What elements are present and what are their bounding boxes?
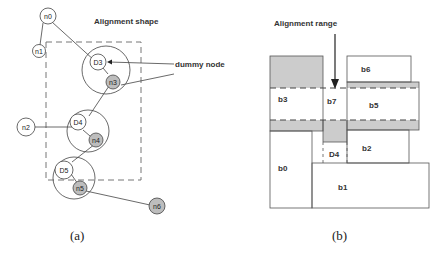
label-b6: b6	[361, 65, 371, 74]
svg-text:n5: n5	[76, 185, 84, 192]
alignment-range-title: Alignment range	[274, 19, 338, 28]
node-n6: n6	[149, 198, 165, 214]
arrowhead-icon	[107, 60, 112, 65]
node-n2: n2	[17, 118, 35, 136]
label-b3: b3	[278, 95, 288, 104]
panel-b: Alignment range b3 b7 b5 b6 b2 D4	[270, 19, 429, 243]
node-n3: n3	[106, 75, 120, 89]
caption-b: (b)	[332, 228, 347, 243]
figure: n0 n1 n2 D3 n3 D4 n4 D5	[0, 0, 446, 256]
node-n0: n0	[40, 8, 56, 24]
alignment-shape-title: Alignment shape	[94, 17, 159, 26]
block-b1	[312, 163, 429, 208]
block-b2	[347, 130, 409, 163]
label-b0: b0	[278, 164, 288, 173]
dummy-node-label: dummy node	[175, 60, 225, 69]
label-b1: b1	[338, 183, 348, 192]
svg-text:n0: n0	[44, 13, 52, 20]
node-n5: n5	[73, 181, 87, 195]
group-circle-3	[82, 46, 130, 94]
svg-text:n4: n4	[92, 137, 100, 144]
svg-text:n2: n2	[22, 124, 30, 131]
svg-text:D5: D5	[60, 167, 69, 174]
label-b5: b5	[369, 101, 379, 110]
svg-text:n1: n1	[35, 48, 43, 55]
node-n1: n1	[33, 45, 46, 58]
block-b6	[347, 56, 411, 82]
node-n4: n4	[89, 133, 103, 147]
label-b2: b2	[362, 144, 372, 153]
svg-text:n3: n3	[109, 79, 117, 86]
dummy-node-D4: D4	[70, 114, 86, 130]
dummy-node-D3: D3	[90, 54, 106, 70]
svg-text:D3: D3	[94, 59, 103, 66]
svg-text:n6: n6	[153, 203, 161, 210]
block-b0	[270, 131, 312, 208]
label-D4: D4	[329, 150, 340, 159]
label-b7: b7	[327, 97, 337, 106]
caption-a: (a)	[70, 228, 84, 243]
svg-text:D4: D4	[74, 119, 83, 126]
panel-a: n0 n1 n2 D3 n3 D4 n4 D5	[17, 8, 225, 243]
dummy-node-D5: D5	[55, 161, 73, 179]
